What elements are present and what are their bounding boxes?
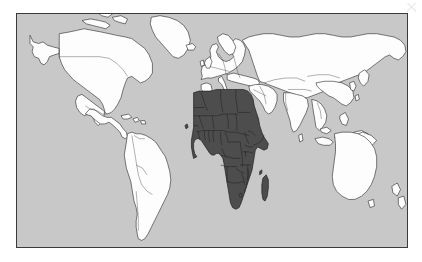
world-map-svg bbox=[17, 14, 407, 247]
land-sri-lanka bbox=[299, 134, 303, 142]
world-map-panel bbox=[16, 13, 408, 248]
page-background bbox=[0, 0, 422, 262]
scan-artifact-icon bbox=[407, 3, 416, 12]
